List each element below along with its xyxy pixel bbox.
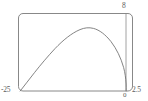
plot-figure: 8 -25 0 2.5 xyxy=(0,0,148,101)
x-min-tick-label: -25 xyxy=(1,86,10,94)
y-max-tick-label: 8 xyxy=(122,2,126,10)
plot-canvas xyxy=(0,0,148,101)
x-max-tick-label: 2.5 xyxy=(132,86,141,94)
plot-frame xyxy=(19,14,133,92)
x-zero-tick-label: 0 xyxy=(123,91,126,99)
data-curve xyxy=(20,28,126,91)
